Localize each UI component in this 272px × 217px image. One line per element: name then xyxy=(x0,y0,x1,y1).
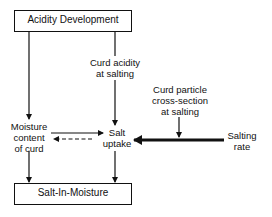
curd-acidity-line1: Curd acidity xyxy=(84,57,146,68)
moisture-line2: content xyxy=(6,132,52,143)
curd-acidity-label: Curd acidity at salting xyxy=(84,57,146,79)
curd-particle-label: Curd particle cross-section at salting xyxy=(146,84,214,117)
salting-rate-line2: rate xyxy=(224,141,260,152)
moisture-content-label: Moisture content of curd xyxy=(6,121,52,154)
salt-in-moisture-label: Salt-In-Moisture xyxy=(38,187,109,198)
salt-uptake-line1: Salt xyxy=(100,127,134,138)
moisture-line3: of curd xyxy=(6,143,52,154)
curd-particle-line3: at salting xyxy=(146,106,214,117)
salting-rate-label: Salting rate xyxy=(224,130,260,152)
curd-particle-line1: Curd particle xyxy=(146,84,214,95)
acidity-development-label: Acidity Development xyxy=(27,14,118,25)
salt-uptake-label: Salt uptake xyxy=(100,127,134,149)
salt-in-moisture-box: Salt-In-Moisture xyxy=(14,183,132,205)
curd-particle-line2: cross-section xyxy=(146,95,214,106)
salting-rate-line1: Salting xyxy=(224,130,260,141)
moisture-line1: Moisture xyxy=(6,121,52,132)
curd-acidity-line2: at salting xyxy=(84,68,146,79)
salt-uptake-line2: uptake xyxy=(100,138,134,149)
acidity-development-box: Acidity Development xyxy=(14,10,132,32)
